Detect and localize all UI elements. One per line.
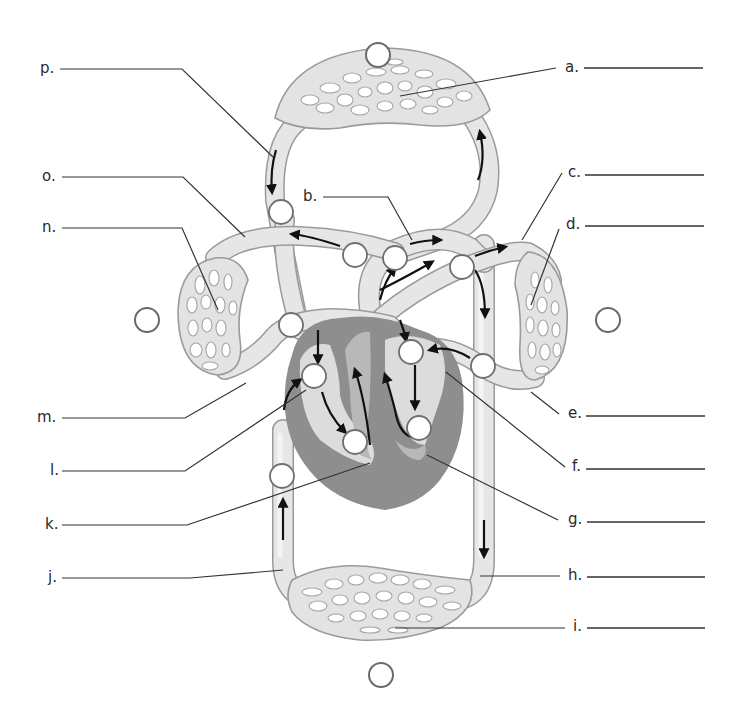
region-circle-right[interactable] (596, 308, 620, 332)
svg-text:d.: d. (566, 215, 580, 233)
superior-vena-cava (275, 120, 300, 330)
vessel-circle[interactable] (450, 255, 474, 279)
label-m: m. (37, 408, 56, 426)
label-n: n. (42, 218, 56, 236)
vessel-circle[interactable] (407, 416, 431, 440)
region-circle-top[interactable] (366, 43, 390, 67)
region-circle-bottom[interactable] (369, 663, 393, 687)
label-g: g. (568, 510, 705, 528)
label-l: l. (50, 461, 59, 479)
heart (285, 317, 464, 511)
vessel-circle[interactable] (302, 364, 326, 388)
label-p: p. (40, 59, 54, 77)
label-a: a. (565, 58, 703, 76)
svg-text:l.: l. (50, 461, 59, 479)
pulmonary-artery-right (215, 236, 395, 258)
label-k: k. (45, 515, 58, 533)
svg-text:o.: o. (42, 167, 56, 185)
label-i: i. (573, 617, 705, 635)
vessel-circle[interactable] (269, 200, 293, 224)
svg-text:n.: n. (42, 218, 56, 236)
svg-text:f.: f. (572, 457, 581, 475)
label-d: d. (566, 215, 704, 233)
svg-text:c.: c. (568, 163, 581, 181)
label-j: j. (47, 568, 57, 586)
svg-text:g.: g. (568, 510, 582, 528)
right-lung-capillary-bed (178, 258, 248, 375)
svg-text:e.: e. (568, 404, 582, 422)
label-h: h. (568, 566, 705, 584)
svg-text:m.: m. (37, 408, 56, 426)
label-o: o. (42, 167, 56, 185)
vessel-circle[interactable] (343, 430, 367, 454)
vessel-circle[interactable] (343, 243, 367, 267)
lower-body-capillary-bed (288, 566, 472, 641)
label-e: e. (568, 404, 705, 422)
vessel-circle[interactable] (270, 464, 294, 488)
svg-text:h.: h. (568, 566, 582, 584)
vessel-circle[interactable] (471, 354, 495, 378)
svg-text:a.: a. (565, 58, 579, 76)
vessel-circle[interactable] (399, 340, 423, 364)
svg-text:i.: i. (573, 617, 582, 635)
region-circle-left[interactable] (135, 308, 159, 332)
svg-text:j.: j. (47, 568, 57, 586)
svg-text:k.: k. (45, 515, 58, 533)
label-b: b. (303, 187, 317, 205)
circulatory-system-diagram: p. o. n. m. l. k. j. b. a. c. d. e. f. (0, 0, 739, 725)
label-c: c. (568, 163, 704, 181)
svg-text:p.: p. (40, 59, 54, 77)
vessel-circle[interactable] (279, 313, 303, 337)
svg-text:b.: b. (303, 187, 317, 205)
label-f: f. (572, 457, 705, 475)
vessel-circle[interactable] (383, 246, 407, 270)
